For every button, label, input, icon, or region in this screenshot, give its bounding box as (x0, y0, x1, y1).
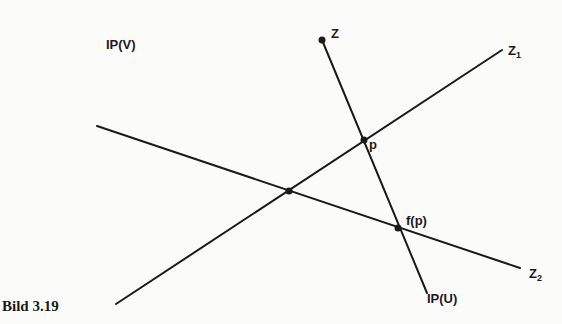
label-space-u: IP(U) (427, 292, 457, 305)
label-point-fp: f(p) (406, 214, 427, 227)
line-z2 (97, 126, 520, 268)
label-z1: Z1 (508, 44, 521, 60)
point-fp (395, 225, 402, 232)
projection-diagram (0, 0, 562, 324)
figure-caption: Bild 3.19 (2, 298, 59, 315)
line-z1 (116, 50, 502, 304)
label-z1-sub: 1 (516, 50, 521, 60)
label-point-p: p (369, 138, 377, 151)
label-z2: Z2 (529, 267, 542, 283)
point-intersection (286, 188, 293, 195)
label-center-z: Z (331, 27, 339, 40)
label-z2-main: Z (529, 266, 537, 281)
label-z1-main: Z (508, 43, 516, 58)
line-projection (322, 40, 427, 293)
label-space-v: IP(V) (106, 38, 136, 51)
label-z2-sub: 2 (537, 273, 542, 283)
point-p (361, 137, 368, 144)
point-z (319, 37, 326, 44)
